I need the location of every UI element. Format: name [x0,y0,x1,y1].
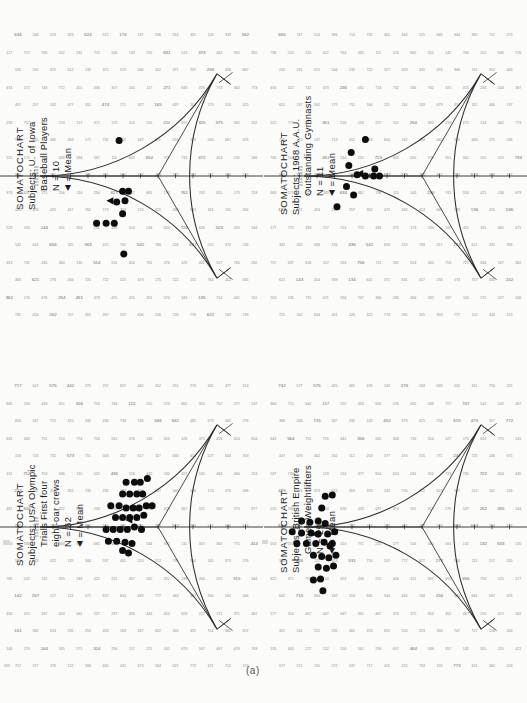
svg-text:242: 242 [59,51,65,55]
svg-text:215: 215 [305,51,311,55]
svg-text:161: 161 [164,647,170,651]
svg-text:436: 436 [428,402,434,406]
svg-text:635: 635 [410,156,416,160]
svg-text:714: 714 [216,296,222,300]
svg-text:371: 371 [103,68,109,72]
svg-text:467: 467 [463,612,469,616]
svg-text:711: 711 [375,261,381,265]
svg-text:562: 562 [358,86,364,90]
svg-text:412: 412 [59,507,65,511]
svg-text:567: 567 [94,156,100,160]
svg-text:717: 717 [14,383,22,388]
svg-text:516: 516 [410,542,416,546]
data-point [144,475,151,482]
svg-text:731: 731 [15,313,21,317]
svg-text:333: 333 [332,278,338,282]
svg-text:551: 551 [59,226,65,230]
svg-text:415: 415 [384,664,390,668]
panel-weightlifters: SOMATOCHART Subjects: British Empire Gam… [264,351,527,702]
svg-text:454: 454 [129,261,135,265]
svg-text:537: 537 [120,313,126,317]
svg-text:322: 322 [50,559,56,563]
svg-text:653: 653 [428,612,434,616]
svg-text:621: 621 [472,243,478,247]
svg-text:271: 271 [76,647,82,651]
svg-text:752: 752 [216,402,222,406]
svg-text:612: 612 [68,68,74,72]
svg-text:725: 725 [279,138,285,142]
svg-text:651: 651 [216,191,222,195]
svg-text:666: 666 [437,33,443,37]
svg-text:571: 571 [85,594,91,598]
svg-text:733: 733 [288,472,294,476]
svg-text:145: 145 [297,489,303,493]
svg-text:537: 537 [251,402,257,406]
svg-text:462: 462 [251,612,257,616]
svg-text:773: 773 [515,121,521,125]
svg-text:616: 616 [375,402,381,406]
svg-text:342: 342 [279,243,285,247]
somatotype-number-grid: 7425775754254654761422761636335316117562… [270,383,521,668]
svg-text:444: 444 [146,612,152,616]
svg-text:262: 262 [480,506,488,511]
data-point [334,203,341,210]
svg-text:474: 474 [102,102,110,107]
svg-text:441: 441 [234,296,240,300]
svg-text:117: 117 [146,86,152,90]
svg-text:443: 443 [24,437,30,441]
svg-text:161: 161 [445,542,451,546]
svg-text:257: 257 [120,454,126,458]
svg-text:254: 254 [58,295,66,300]
svg-text:317: 317 [445,647,451,651]
svg-text:676: 676 [297,454,303,458]
svg-text:313: 313 [6,261,12,265]
svg-text:233: 233 [437,278,443,282]
svg-text:161: 161 [208,559,214,563]
svg-text:474: 474 [437,68,443,72]
svg-text:256: 256 [436,593,444,598]
svg-text:725: 725 [85,278,91,282]
svg-text:274: 274 [234,507,240,511]
svg-text:257: 257 [103,384,109,388]
svg-text:264: 264 [199,577,205,581]
svg-text:447: 447 [323,612,329,616]
svg-text:133: 133 [129,51,135,55]
svg-text:252: 252 [480,51,486,55]
svg-text:426: 426 [59,156,65,160]
svg-text:512: 512 [270,121,276,125]
svg-text:472: 472 [498,612,504,616]
svg-text:637: 637 [375,507,381,511]
main-horizontal-axis [264,525,527,529]
svg-text:176: 176 [24,296,30,300]
svg-text:514: 514 [340,472,346,476]
svg-text:342: 342 [146,577,152,581]
svg-text:712: 712 [50,419,56,423]
svg-text:674: 674 [6,86,12,90]
svg-text:166: 166 [251,156,257,160]
data-point [329,492,336,499]
svg-text:536: 536 [506,207,514,212]
svg-text:144: 144 [6,647,12,651]
svg-text:577: 577 [297,384,303,388]
svg-text:374: 374 [305,507,311,511]
svg-text:472: 472 [103,243,109,247]
svg-text:145: 145 [367,419,373,423]
figure-page: SOMATOCHART Subjects: U. of Iowa Basebal… [0,0,527,703]
svg-text:356: 356 [437,629,443,633]
data-point [303,540,310,547]
svg-text:474: 474 [463,86,469,90]
svg-text:722: 722 [480,471,488,476]
svg-text:415: 415 [68,419,74,423]
svg-text:413: 413 [507,313,513,317]
svg-text:252: 252 [164,577,170,581]
svg-text:311: 311 [489,489,495,493]
svg-text:174: 174 [208,489,214,493]
svg-text:175: 175 [155,278,161,282]
svg-text:663: 663 [472,138,478,142]
svg-text:311: 311 [190,33,196,37]
svg-text:717: 717 [367,664,373,668]
data-point [331,528,338,535]
svg-text:371: 371 [384,278,390,282]
svg-text:355: 355 [59,577,65,581]
svg-text:554: 554 [463,191,469,195]
